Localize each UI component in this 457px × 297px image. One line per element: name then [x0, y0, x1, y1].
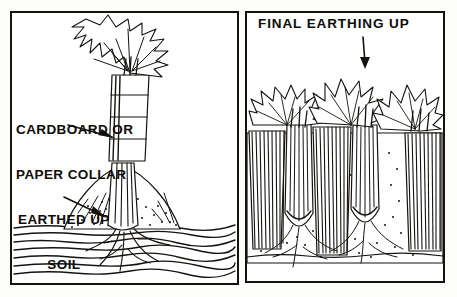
label-collar-line1: CARDBOARD OR	[16, 122, 133, 137]
down-arrow-title	[360, 37, 370, 69]
right-panel-artwork	[247, 13, 443, 281]
leafy-tops-right	[249, 79, 443, 131]
label-earthed-up-soil: EARTHED UP SOIL	[18, 182, 110, 297]
panel-final-earthing	[245, 11, 445, 283]
soil-ridge-1	[249, 131, 285, 249]
soil-ridge-3	[405, 133, 441, 251]
label-soil-line2: SOIL	[18, 257, 110, 272]
label-soil-line1: EARTHED UP	[18, 212, 110, 227]
leaf-cluster-3	[373, 85, 443, 131]
celery-plant-1	[285, 123, 313, 226]
label-collar-line2: PAPER COLLAR	[16, 167, 133, 182]
leafy-top-left	[72, 15, 168, 77]
label-final-earthing-up: FINAL EARTHING UP	[258, 16, 410, 31]
illustration-root: CARDBOARD OR PAPER COLLAR EARTHED UP SOI…	[0, 0, 457, 297]
celery-plant-2	[351, 125, 379, 222]
soil-ridge-2	[313, 127, 351, 255]
